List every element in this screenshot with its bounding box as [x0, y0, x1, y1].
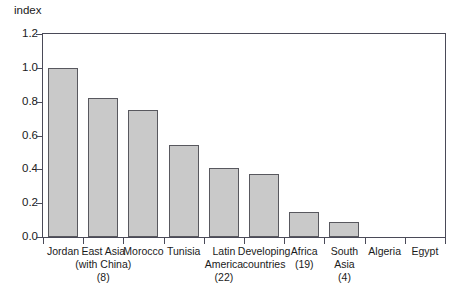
y-axis-tick-mark	[36, 203, 42, 204]
x-axis-category-label: Egypt	[397, 245, 453, 258]
bar	[48, 68, 78, 237]
bar	[249, 174, 279, 237]
y-axis-tick-mark	[36, 68, 42, 69]
bar-slot	[164, 34, 204, 237]
x-axis-tick-mark	[43, 238, 44, 244]
y-axis-tick-mark	[36, 102, 42, 103]
y-axis-tick-label: 0.8	[8, 96, 38, 108]
x-axis-category-label-line: (with China)	[75, 258, 131, 271]
y-axis-tick-label: 0.4	[8, 164, 38, 176]
y-axis-tick-label: 0.2	[8, 197, 38, 209]
y-axis-tick-mark	[36, 136, 42, 137]
bar	[169, 145, 199, 237]
bar-slot	[43, 34, 83, 237]
bar-slot	[83, 34, 123, 237]
x-axis-tick-mark	[284, 238, 285, 244]
x-axis-tick-mark	[244, 238, 245, 244]
x-axis-tick-mark	[164, 238, 165, 244]
y-axis-tick-labels: 1.21.00.80.60.40.20.0	[0, 0, 38, 297]
y-axis-tick-mark	[36, 169, 42, 170]
bar-slot	[204, 34, 244, 237]
y-axis-tick-label: 1.0	[8, 62, 38, 74]
bar	[88, 98, 118, 237]
x-axis-tick-mark	[405, 238, 406, 244]
x-axis-tick-mark	[445, 238, 446, 244]
bar-slot	[284, 34, 324, 237]
x-axis-tick-mark	[204, 238, 205, 244]
y-axis-tick-label: 0.0	[8, 231, 38, 243]
bar-slot	[244, 34, 284, 237]
x-axis-tick-mark	[123, 238, 124, 244]
bar	[209, 168, 239, 237]
bar	[329, 222, 359, 237]
x-axis-category-label-line: Asia	[316, 258, 372, 271]
bar	[128, 110, 158, 237]
y-axis-tick-mark	[36, 34, 42, 35]
y-axis-tick-mark	[36, 237, 42, 238]
bar-chart: index 1.21.00.80.60.40.20.0 JordanEast A…	[0, 0, 461, 297]
x-axis-tick-mark	[324, 238, 325, 244]
x-axis-category-label-line: (4)	[316, 271, 372, 284]
y-axis-tick-label: 1.2	[8, 28, 38, 40]
bar-slot	[324, 34, 364, 237]
y-axis-tick-label: 0.6	[8, 130, 38, 142]
x-axis-category-labels: JordanEast Asia(with China)(8)MoroccoTun…	[43, 245, 445, 297]
x-axis-category-label-line: (22)	[196, 271, 252, 284]
bar-slot	[405, 34, 445, 237]
bar-slot	[123, 34, 163, 237]
x-axis-tick-mark	[365, 238, 366, 244]
bar	[289, 212, 319, 237]
x-axis-tick-mark	[83, 238, 84, 244]
bar-slot	[365, 34, 405, 237]
x-axis-category-label-line: (8)	[75, 271, 131, 284]
x-axis-category-label-line: Egypt	[397, 245, 453, 258]
bars-layer	[43, 34, 445, 237]
